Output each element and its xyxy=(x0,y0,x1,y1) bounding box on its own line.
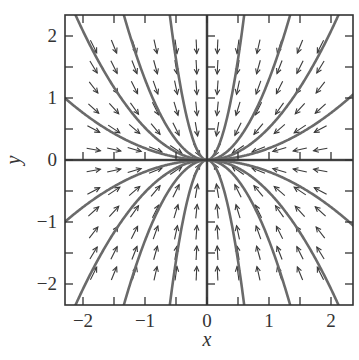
arrow-icon xyxy=(235,185,241,198)
arrow-icon xyxy=(174,205,179,218)
arrow-icon xyxy=(194,60,199,74)
arrow-icon xyxy=(88,104,98,113)
arrow-icon xyxy=(235,205,240,218)
arrow-icon xyxy=(276,226,282,239)
arrow-icon xyxy=(235,81,240,95)
arrow-icon xyxy=(129,124,140,133)
arrow-icon xyxy=(277,246,283,259)
arrow-icon xyxy=(111,40,117,53)
tick-labels: −2−1012−2−1012 xyxy=(37,25,336,331)
arrow-icon xyxy=(107,148,121,153)
arrow-icon xyxy=(277,60,283,73)
arrow-icon xyxy=(315,104,325,113)
arrow-icon xyxy=(235,123,241,136)
arrow-icon xyxy=(154,246,159,259)
arrow-icon xyxy=(107,168,121,173)
arrow-icon xyxy=(314,188,326,195)
y-tick-label: −1 xyxy=(37,211,57,232)
arrow-icon xyxy=(132,246,138,259)
arrow-icon xyxy=(215,80,220,94)
arrow-icon xyxy=(235,226,240,240)
arrow-icon xyxy=(273,168,286,173)
arrow-icon xyxy=(109,206,118,216)
x-tick-label: −2 xyxy=(73,310,93,331)
arrow-icon xyxy=(132,60,138,73)
x-tick-label: 1 xyxy=(264,310,274,331)
arrow-icon xyxy=(90,61,97,73)
arrow-icon xyxy=(235,102,240,115)
arrow-icon xyxy=(295,103,304,113)
arrow-icon xyxy=(154,60,159,73)
arrow-icon xyxy=(194,40,199,54)
arrow-icon xyxy=(194,122,199,136)
y-axis-label: y xyxy=(2,155,25,166)
arrow-icon xyxy=(215,204,220,218)
arrow-icon xyxy=(129,186,140,195)
arrow-icon xyxy=(87,126,99,133)
arrow-icon xyxy=(316,227,325,238)
arrow-icon xyxy=(293,148,307,153)
arrow-icon xyxy=(154,267,159,281)
arrow-icon xyxy=(174,81,179,95)
center-axes xyxy=(65,15,353,305)
y-tick-label: 1 xyxy=(48,87,58,108)
x-axis-label: x xyxy=(202,328,212,350)
arrow-icon xyxy=(215,266,220,280)
arrow-icon xyxy=(297,40,303,53)
arrow-icon xyxy=(194,204,199,218)
arrow-icon xyxy=(215,102,220,116)
arrow-icon xyxy=(256,246,261,259)
arrow-icon xyxy=(215,226,220,240)
arrow-icon xyxy=(315,207,325,216)
arrow-icon xyxy=(274,124,285,133)
arrow-icon xyxy=(273,148,286,153)
arrow-icon xyxy=(297,267,303,280)
arrow-icon xyxy=(111,267,117,280)
arrow-icon xyxy=(151,186,160,197)
arrow-icon xyxy=(317,61,324,73)
arrow-icon xyxy=(194,184,199,198)
arrow-icon xyxy=(293,168,307,173)
arrow-icon xyxy=(254,186,263,197)
arrow-icon xyxy=(317,247,324,259)
arrow-icon xyxy=(151,124,160,135)
arrow-icon xyxy=(215,40,220,54)
arrow-icon xyxy=(194,246,199,260)
x-tick-label: 2 xyxy=(326,310,336,331)
arrow-icon xyxy=(215,246,220,260)
arrow-icon xyxy=(256,226,261,239)
arrow-icon xyxy=(274,186,285,195)
y-tick-label: 0 xyxy=(48,149,58,170)
arrow-icon xyxy=(297,61,303,74)
arrow-icon xyxy=(314,147,328,152)
arrow-icon xyxy=(173,123,179,136)
arrow-icon xyxy=(194,226,199,240)
arrow-icon xyxy=(154,40,159,54)
arrow-icon xyxy=(215,122,220,136)
arrow-icon xyxy=(194,266,199,280)
arrow-icon xyxy=(256,81,261,94)
arrow-icon xyxy=(111,61,117,74)
arrow-icon xyxy=(174,102,179,115)
arrow-icon xyxy=(88,207,98,216)
arrow-icon xyxy=(128,168,141,173)
arrow-icon xyxy=(215,60,220,74)
arrow-icon xyxy=(131,81,137,94)
arrow-icon xyxy=(295,206,304,216)
arrow-icon xyxy=(90,247,97,259)
arrow-icon xyxy=(314,168,328,173)
arrow-icon xyxy=(256,267,261,281)
arrow-icon xyxy=(109,103,118,113)
phase-portrait-chart: −2−1012−2−1012 x y xyxy=(0,0,359,360)
arrow-icon xyxy=(276,81,282,94)
arrow-icon xyxy=(174,226,179,240)
y-tick-label: 2 xyxy=(48,25,58,46)
x-tick-label: −1 xyxy=(135,310,155,331)
arrow-icon xyxy=(314,126,326,133)
arrow-icon xyxy=(153,81,158,94)
arrow-icon xyxy=(128,148,141,153)
arrow-icon xyxy=(215,184,220,198)
arrow-icon xyxy=(153,226,158,239)
arrow-icon xyxy=(297,247,303,260)
arrow-icon xyxy=(194,80,199,94)
